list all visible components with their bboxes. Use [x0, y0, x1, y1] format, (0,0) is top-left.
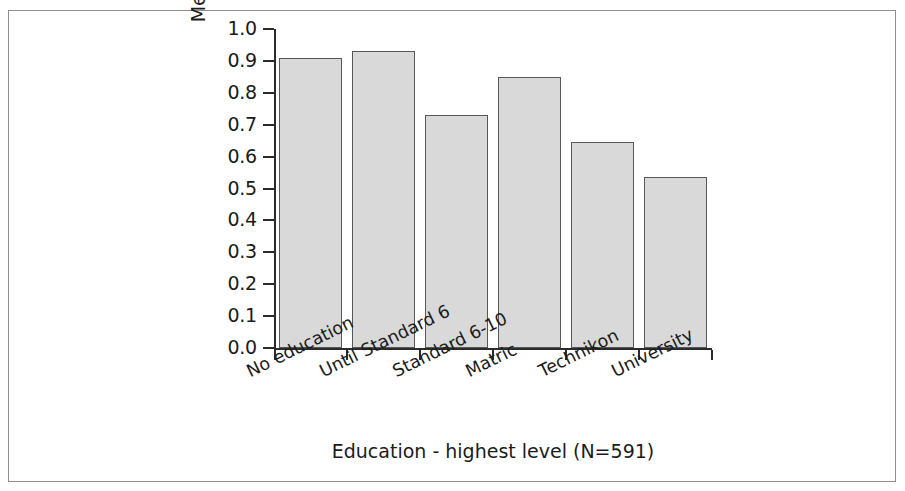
y-axis-tick: 0.9: [263, 60, 274, 62]
y-axis-tick: 0.4: [263, 219, 274, 221]
y-axis-tick: 0.8: [263, 92, 274, 94]
y-axis-tick: 0.2: [263, 283, 274, 285]
y-axis-title: Mean support kgoši (%): [178, 0, 218, 69]
y-axis-tick: 0.6: [263, 156, 274, 158]
y-axis-tick-label: 0.6: [227, 145, 257, 167]
y-axis-tick-label: 0.3: [227, 240, 257, 262]
y-axis-tick-label: 0.5: [227, 177, 257, 199]
y-axis-tick-label: 0.9: [227, 49, 257, 71]
y-axis-line: [274, 29, 276, 348]
y-axis-tick-label: 0.1: [227, 304, 257, 326]
y-axis-tick: 0.1: [263, 315, 274, 317]
bar: [279, 58, 342, 348]
x-axis-tick: [711, 350, 713, 360]
y-axis-tick: 0.7: [263, 124, 274, 126]
bar: [571, 142, 634, 348]
y-axis-tick-label: 0.8: [227, 81, 257, 103]
x-axis-title: Education - highest level (N=591): [274, 440, 712, 462]
bar: [644, 177, 707, 348]
y-axis-tick: 0.3: [263, 251, 274, 253]
y-axis-tick-label: 1.0: [227, 17, 257, 39]
bar: [352, 51, 415, 348]
y-axis-tick-label: 0.4: [227, 208, 257, 230]
y-axis-tick-label: 0.7: [227, 113, 257, 135]
y-axis-tick-label: 0.0: [227, 336, 257, 358]
figure-root: Mean support kgoši (%) 0.00.10.20.30.40.…: [0, 0, 905, 491]
bar: [498, 77, 561, 348]
y-axis-tick-label: 0.2: [227, 272, 257, 294]
plot-area: 0.00.10.20.30.40.50.60.70.80.91.0: [274, 29, 712, 348]
y-axis-tick: 1.0: [263, 28, 274, 30]
y-axis-tick: 0.5: [263, 188, 274, 190]
